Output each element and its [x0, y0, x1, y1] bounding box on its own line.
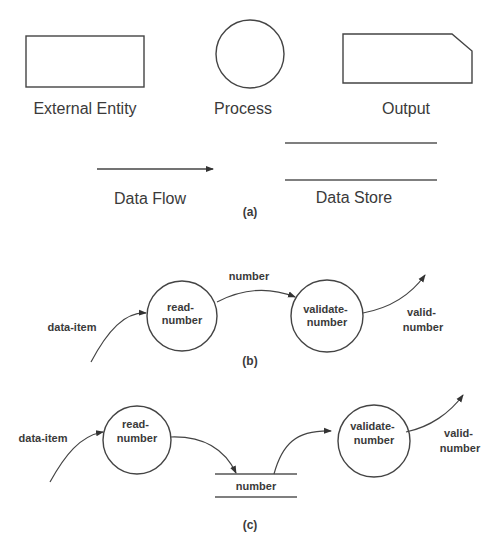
output-label: Output	[382, 100, 431, 117]
input-flow-label: data-item	[19, 432, 68, 444]
output-flow-label: valid- number	[440, 427, 481, 454]
process-label: Process	[214, 100, 272, 117]
caption-a: (a)	[243, 205, 258, 219]
process-validate-number-label: validate- number	[350, 420, 398, 446]
diagram-b: data-item read- number number validate- …	[48, 270, 444, 368]
number-flow-arrow	[217, 290, 295, 302]
process-read-number-label: read- number	[117, 418, 158, 444]
number-flow-label: number	[229, 270, 270, 282]
flow-to-store-arrow	[171, 437, 236, 473]
process-read-number-label: read- number	[162, 301, 203, 326]
caption-c: (c)	[243, 518, 258, 532]
output-shape	[343, 34, 472, 83]
data-store-label: Data Store	[316, 189, 393, 206]
input-flow-label: data-item	[48, 321, 97, 333]
dfd-figure: External Entity Process Output Data Flow…	[0, 0, 500, 544]
data-flow-label: Data Flow	[114, 190, 186, 207]
legend-section: External Entity Process Output Data Flow…	[26, 20, 472, 219]
flow-from-store-arrow	[274, 431, 331, 474]
diagram-c: data-item read- number number validate- …	[19, 395, 481, 532]
caption-b: (b)	[242, 354, 257, 368]
process-validate-number-label: validate- number	[303, 303, 351, 328]
store-label: number	[236, 480, 277, 492]
output-flow-label: valid- number	[403, 306, 444, 333]
external-entity-label: External Entity	[33, 100, 136, 117]
input-flow-arrow	[91, 313, 146, 362]
external-entity-shape	[26, 36, 144, 87]
process-shape	[216, 20, 284, 88]
